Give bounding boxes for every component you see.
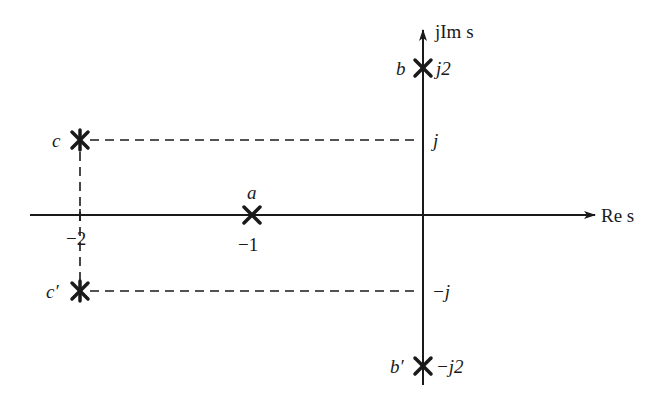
- pole-marker-c-prime: [72, 281, 88, 301]
- tick-label-minus-1: −1: [238, 234, 258, 255]
- point-label-b-prime: b′: [390, 356, 405, 377]
- tick-label-minus-j2: −j2: [436, 356, 464, 377]
- point-label-b: b: [396, 58, 406, 79]
- real-axis-label: Re s: [601, 205, 634, 226]
- tick-label-minus-2: −2: [66, 228, 86, 249]
- point-label-a: a: [247, 182, 257, 203]
- point-label-c-prime: c′: [46, 281, 59, 302]
- tick-label-minus-j: −j: [432, 281, 450, 302]
- point-label-c: c: [52, 130, 61, 151]
- tick-label-j: j: [430, 130, 438, 151]
- pole-marker-c: [72, 130, 88, 150]
- imaginary-axis-label: jIm s: [434, 21, 474, 42]
- tick-label-j2: j2: [433, 58, 451, 79]
- s-plane-diagram: Re s jIm s −2 −1 j2 j −j −j2 a b b′ c c′: [0, 0, 664, 399]
